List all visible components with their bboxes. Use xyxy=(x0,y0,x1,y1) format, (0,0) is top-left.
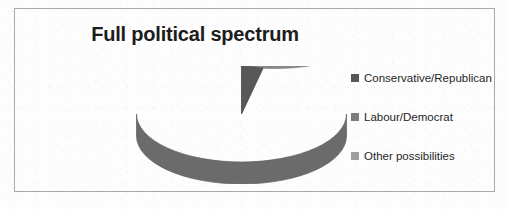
legend-swatch-icon xyxy=(351,113,359,121)
pie-slice-minor xyxy=(242,66,264,114)
chart-legend: Conservative/Republican Labour/Democrat … xyxy=(351,71,509,163)
chart-frame: Full political spectrum Conservative/Rep… xyxy=(14,8,495,192)
legend-swatch-icon xyxy=(351,74,359,82)
pie-side-wall xyxy=(137,114,347,184)
legend-label: Labour/Democrat xyxy=(364,110,453,124)
legend-label: Conservative/Republican xyxy=(364,71,492,85)
legend-item-labour-democrat[interactable]: Labour/Democrat xyxy=(351,110,509,124)
legend-item-conservative-republican[interactable]: Conservative/Republican xyxy=(351,71,509,85)
legend-swatch-icon xyxy=(351,152,359,160)
legend-label: Other possibilities xyxy=(364,149,455,163)
legend-item-other-possibilities[interactable]: Other possibilities xyxy=(351,149,509,163)
pie-chart-3d xyxy=(136,66,347,184)
chart-title: Full political spectrum xyxy=(15,23,375,46)
